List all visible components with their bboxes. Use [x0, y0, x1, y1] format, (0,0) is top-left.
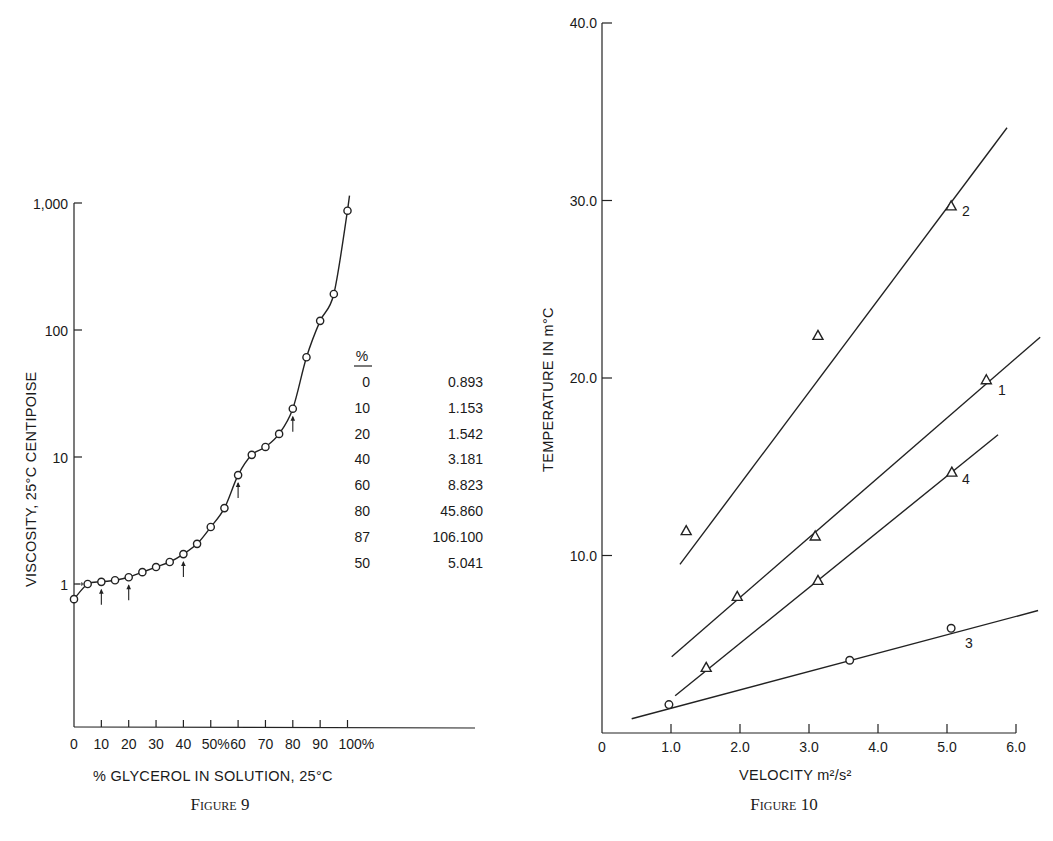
series-line-4: 4: [675, 435, 998, 696]
data-point-triangle: [701, 662, 711, 671]
x-tick-label: 3.0: [799, 739, 819, 755]
figure-10-caption: Figure 10: [750, 795, 817, 814]
figure-9-plot-area: [70, 196, 351, 605]
y-tick-label: 10: [52, 450, 68, 466]
table-row: 403.181: [354, 451, 483, 467]
x-tick-label: 0: [598, 739, 606, 755]
figure-9-caption: Figure 9: [191, 795, 250, 814]
line-label: 3: [965, 635, 973, 651]
x-tick-label: 90: [312, 736, 328, 752]
arrow-up-icon: [181, 561, 186, 577]
data-point-triangle: [732, 591, 742, 600]
figure-10-plot-area: 1234: [632, 128, 1040, 719]
x-tick-label: 60: [230, 736, 246, 752]
x-tick-label: 6.0: [1006, 739, 1026, 755]
data-point-circle: [70, 596, 77, 603]
data-point-triangle: [813, 330, 823, 339]
figure-9-x-axis-label: % GLYCEROL IN SOLUTION, 25°C: [93, 768, 333, 784]
table-cell-value: 5.041: [448, 555, 483, 571]
figure-9-x-axis: 01020304050%60708090100%: [70, 720, 475, 752]
data-point-circle: [207, 523, 214, 530]
data-point-circle: [289, 405, 296, 412]
table-row: 8045.860: [354, 503, 483, 519]
y-tick-label: 1: [60, 577, 68, 593]
figure-10-chart: 10.020.030.040.0 TEMPERATURE IN m°C 01.0…: [540, 15, 1040, 814]
table-header: %: [356, 348, 368, 364]
x-tick-label: 5.0: [937, 739, 957, 755]
table-cell-value: 1.153: [448, 400, 483, 416]
figure-10-x-axis-label: VELOCITY m²/s²: [739, 767, 852, 783]
x-tick-label: 1.0: [661, 739, 681, 755]
table-row: 201.542: [354, 426, 483, 442]
data-point-circle: [221, 504, 228, 511]
x-tick-label: 70: [258, 736, 274, 752]
x-tick-label: 40: [176, 736, 192, 752]
series-line-2: 2: [680, 128, 1007, 565]
line-label: 4: [962, 471, 970, 487]
y-tick-label: 100: [45, 323, 69, 339]
table-row: 608.823: [354, 477, 483, 493]
data-point-circle: [344, 207, 351, 214]
figure-10-x-axis: 01.02.03.04.05.06.0: [598, 724, 1026, 755]
figure-9-chart: 1,000 100 10 1 VISCOSITY, 25°C CENTIPOIS…: [23, 196, 483, 814]
table-cell-percent: 10: [354, 400, 370, 416]
table-cell-value: 0.893: [448, 374, 483, 390]
data-point-circle: [152, 563, 159, 570]
table-cell-percent: 80: [354, 503, 370, 519]
y-tick-label: 30.0: [570, 193, 597, 209]
data-point-circle: [303, 354, 310, 361]
data-point-circle: [262, 443, 269, 450]
table-cell-value: 1.542: [448, 426, 483, 442]
y-tick-label: 40.0: [570, 15, 597, 31]
table-cell-value: 3.181: [448, 451, 483, 467]
arrow-up-icon: [236, 482, 241, 498]
y-tick-label: 10.0: [570, 548, 597, 564]
x-tick-label: 0: [70, 736, 78, 752]
data-point-circle: [846, 656, 854, 664]
x-tick-label: 50%: [202, 736, 230, 752]
data-point-circle: [248, 451, 255, 458]
y-tick-label: 1,000: [33, 196, 68, 212]
data-point-circle: [166, 558, 173, 565]
data-point-circle: [276, 430, 283, 437]
data-point-circle: [665, 701, 673, 709]
arrow-up-icon: [99, 589, 104, 605]
data-point-circle: [111, 577, 118, 584]
x-tick-label: 2.0: [730, 739, 750, 755]
table-cell-percent: 87: [354, 529, 370, 545]
arrow-up-icon: [126, 584, 131, 600]
data-point-triangle: [946, 201, 956, 210]
table-row: 87106.100: [354, 529, 483, 545]
data-point-triangle: [947, 467, 957, 476]
table-row: 101.153: [354, 400, 483, 416]
table-cell-percent: 20: [354, 426, 370, 442]
series-line-1: 1: [672, 337, 1040, 657]
table-cell-percent: 50: [354, 555, 370, 571]
data-point-circle: [139, 569, 146, 576]
viscosity-curve: [74, 196, 350, 599]
data-point-circle: [98, 578, 105, 585]
table-cell-value: 8.823: [448, 477, 483, 493]
line-label: 1: [998, 382, 1006, 398]
table-row: 00.893: [362, 374, 483, 390]
figure-9-y-axis-label: VISCOSITY, 25°C CENTIPOISE: [23, 371, 39, 587]
data-point-circle: [235, 472, 242, 479]
data-point-circle: [317, 317, 324, 324]
x-tick-label: 80: [285, 736, 301, 752]
figures-canvas: 1,000 100 10 1 VISCOSITY, 25°C CENTIPOIS…: [0, 0, 1053, 841]
x-tick-label: 20: [121, 736, 137, 752]
table-cell-percent: 40: [354, 451, 370, 467]
table-cell-value: 106.100: [432, 529, 483, 545]
arrow-up-icon: [291, 416, 296, 432]
figure-9-data-table: % 00.893101.153201.542403.181608.8238045…: [354, 348, 483, 571]
x-tick-label: 10: [94, 736, 110, 752]
table-cell-percent: 60: [354, 477, 370, 493]
figure-10-y-axis: 10.020.030.040.0: [570, 15, 612, 733]
data-point-circle: [180, 550, 187, 557]
x-tick-label: 100%: [339, 736, 375, 752]
data-point-circle: [947, 624, 955, 632]
figure-10-y-axis-label: TEMPERATURE IN m°C: [540, 307, 556, 472]
data-point-circle: [193, 540, 200, 547]
data-point-circle: [84, 580, 91, 587]
data-point-circle: [125, 574, 132, 581]
